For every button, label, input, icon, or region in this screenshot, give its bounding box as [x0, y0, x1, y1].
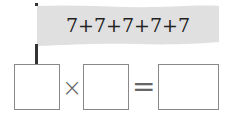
- addition-expression: 7+7+7+7+7: [37, 4, 219, 46]
- times-sign: ×: [62, 74, 82, 102]
- flag-pole: [35, 44, 38, 64]
- answer-box-factor-2[interactable]: [83, 64, 129, 110]
- answer-box-product[interactable]: [158, 64, 219, 110]
- flag-banner: 7+7+7+7+7: [37, 4, 219, 46]
- answer-box-factor-1[interactable]: [14, 64, 60, 110]
- equals-sign: =: [132, 72, 155, 102]
